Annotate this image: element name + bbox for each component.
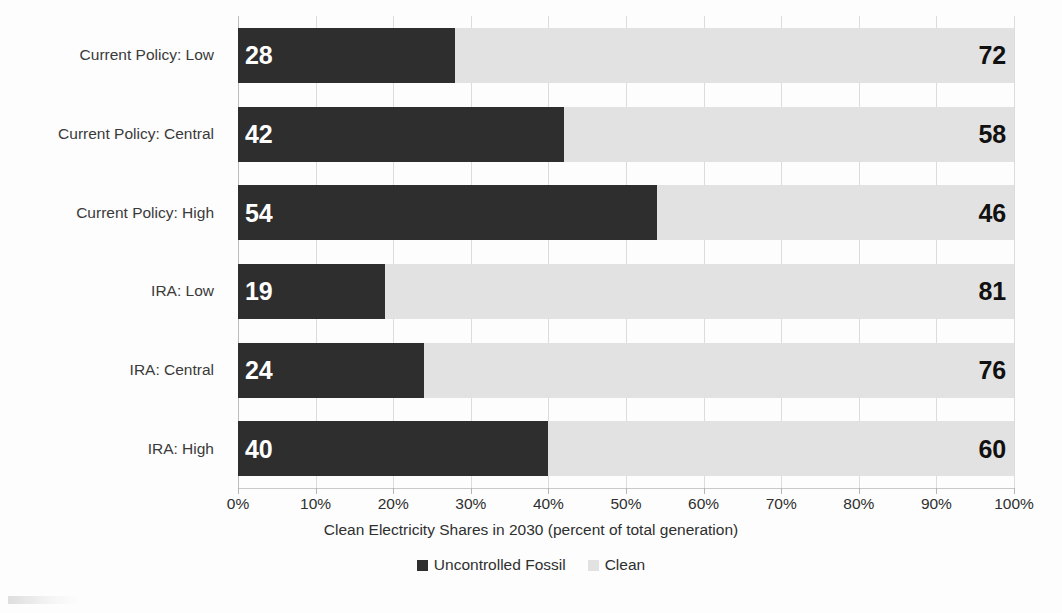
gridline-60 — [704, 16, 705, 488]
y-axis-label-current-policy-central: Current Policy: Central — [0, 107, 226, 162]
x-tick-20 — [393, 488, 394, 494]
x-tick-label-50: 50% — [610, 495, 641, 513]
x-tick-10 — [316, 488, 317, 494]
legend-label: Uncontrolled Fossil — [434, 556, 566, 574]
x-tick-label-10: 10% — [300, 495, 331, 513]
gridline-20 — [393, 16, 394, 488]
bar-value-label-clean: 81 — [979, 277, 1006, 306]
x-tick-label-90: 90% — [921, 495, 952, 513]
legend-label: Clean — [605, 556, 646, 574]
x-tick-0 — [238, 488, 239, 494]
y-axis-category-labels: Current Policy: LowCurrent Policy: Centr… — [0, 16, 226, 488]
gridline-90 — [936, 16, 937, 488]
bar-segment-uncontrolled-fossil[interactable]: 54 — [238, 185, 657, 240]
bar-segment-clean[interactable]: 60 — [548, 421, 1014, 476]
x-tick-label-70: 70% — [766, 495, 797, 513]
bar-segment-uncontrolled-fossil[interactable]: 28 — [238, 28, 455, 83]
bar-segment-clean[interactable]: 46 — [657, 185, 1014, 240]
y-axis-label-ira-central: IRA: Central — [0, 343, 226, 398]
bar-row[interactable]: 4258 — [238, 107, 1014, 162]
legend-item-clean[interactable]: Clean — [588, 556, 646, 574]
x-tick-50 — [626, 488, 627, 494]
bar-value-label-clean: 60 — [979, 434, 1006, 463]
x-tick-30 — [471, 488, 472, 494]
gridline-100 — [1014, 16, 1015, 488]
x-tick-label-0: 0% — [227, 495, 249, 513]
gridline-40 — [548, 16, 549, 488]
bar-row[interactable]: 2872 — [238, 28, 1014, 83]
bar-value-label-fossil: 54 — [245, 198, 272, 227]
chart-legend: Uncontrolled FossilClean — [0, 556, 1062, 574]
bar-value-label-fossil: 24 — [245, 356, 272, 385]
bar-segment-clean[interactable]: 72 — [455, 28, 1014, 83]
x-tick-label-80: 80% — [843, 495, 874, 513]
bar-segment-clean[interactable]: 58 — [564, 107, 1014, 162]
x-tick-70 — [781, 488, 782, 494]
y-axis-label-current-policy-high: Current Policy: High — [0, 185, 226, 240]
legend-swatch-fossil-icon — [417, 560, 428, 571]
bar-segment-clean[interactable]: 76 — [424, 343, 1014, 398]
bar-value-label-clean: 72 — [979, 41, 1006, 70]
bar-value-label-fossil: 40 — [245, 434, 272, 463]
bar-row[interactable]: 1981 — [238, 264, 1014, 319]
bar-segment-uncontrolled-fossil[interactable]: 19 — [238, 264, 385, 319]
plot-area: 287242585446198124764060 — [238, 16, 1014, 488]
legend-item-fossil[interactable]: Uncontrolled Fossil — [417, 556, 566, 574]
gridline-50 — [626, 16, 627, 488]
bar-row[interactable]: 4060 — [238, 421, 1014, 476]
gridline-30 — [471, 16, 472, 488]
gridline-70 — [781, 16, 782, 488]
gridline-10 — [316, 16, 317, 488]
bar-segment-uncontrolled-fossil[interactable]: 24 — [238, 343, 424, 398]
bar-value-label-fossil: 28 — [245, 41, 272, 70]
bar-value-label-clean: 46 — [979, 198, 1006, 227]
bar-value-label-fossil: 19 — [245, 277, 272, 306]
chart-figure: Current Policy: LowCurrent Policy: Centr… — [0, 0, 1062, 613]
bar-value-label-clean: 58 — [979, 120, 1006, 149]
bar-value-label-fossil: 42 — [245, 120, 272, 149]
x-axis-title: Clean Electricity Shares in 2030 (percen… — [0, 521, 1062, 539]
y-axis-label-ira-high: IRA: High — [0, 421, 226, 476]
x-tick-40 — [548, 488, 549, 494]
scan-artifact — [8, 596, 80, 604]
x-tick-label-100: 100% — [994, 495, 1034, 513]
x-tick-60 — [704, 488, 705, 494]
gridline-0 — [238, 16, 239, 488]
bar-row[interactable]: 5446 — [238, 185, 1014, 240]
bar-value-label-clean: 76 — [979, 356, 1006, 385]
bar-segment-clean[interactable]: 81 — [385, 264, 1014, 319]
x-tick-100 — [1014, 488, 1015, 494]
y-axis-label-current-policy-low: Current Policy: Low — [0, 28, 226, 83]
x-tick-label-20: 20% — [378, 495, 409, 513]
x-tick-90 — [936, 488, 937, 494]
legend-swatch-clean-icon — [588, 560, 599, 571]
bar-segment-uncontrolled-fossil[interactable]: 40 — [238, 421, 548, 476]
x-tick-label-60: 60% — [688, 495, 719, 513]
x-tick-label-40: 40% — [533, 495, 564, 513]
y-axis-label-ira-low: IRA: Low — [0, 264, 226, 319]
gridline-80 — [859, 16, 860, 488]
x-tick-label-30: 30% — [455, 495, 486, 513]
bar-row[interactable]: 2476 — [238, 343, 1014, 398]
x-tick-80 — [859, 488, 860, 494]
bar-segment-uncontrolled-fossil[interactable]: 42 — [238, 107, 564, 162]
